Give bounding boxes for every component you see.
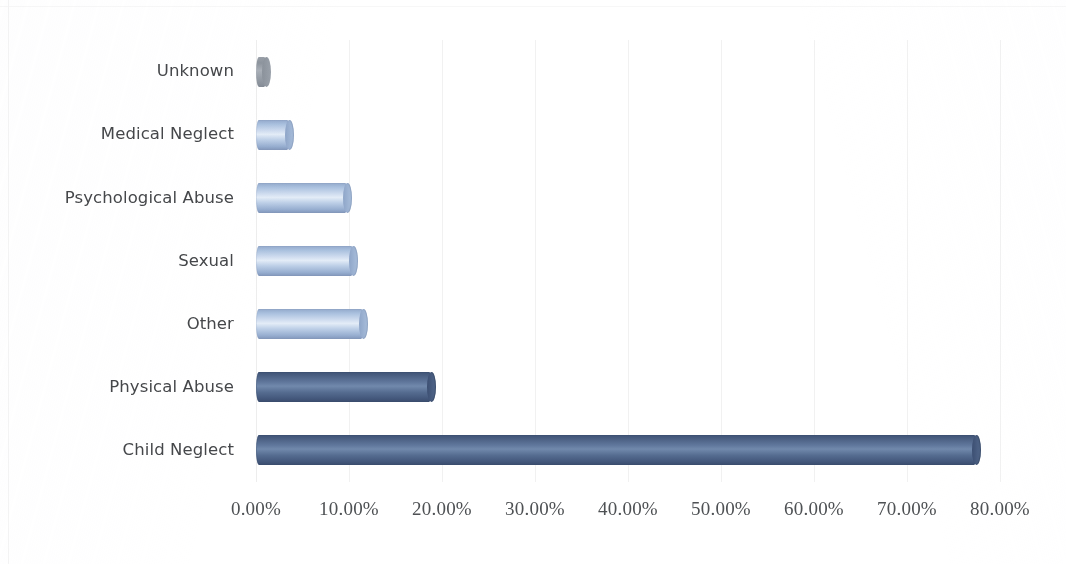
bar-body <box>256 372 432 402</box>
bar-row: Unknown <box>256 40 267 103</box>
bar-body <box>256 309 364 339</box>
bar-body <box>256 183 348 213</box>
bar <box>256 435 977 465</box>
bar-row: Sexual <box>256 229 354 292</box>
x-axis-tick-label: 70.00% <box>877 498 937 520</box>
x-axis-tick-label: 40.00% <box>598 498 658 520</box>
x-axis-tick-label: 50.00% <box>691 498 751 520</box>
x-axis-tick-label: 30.00% <box>505 498 565 520</box>
category-label: Other <box>187 316 234 333</box>
bar-end-cap <box>285 120 294 150</box>
gridline <box>442 40 443 482</box>
x-axis-tick-label: 10.00% <box>319 498 379 520</box>
category-label: Child Neglect <box>123 442 234 459</box>
x-axis-tick-label: 60.00% <box>784 498 844 520</box>
plot-area: UnknownMedical NeglectPsychological Abus… <box>256 40 1000 520</box>
gridline <box>907 40 908 482</box>
x-axis-tick-label: 20.00% <box>412 498 472 520</box>
bar <box>256 120 290 150</box>
gridline <box>721 40 722 482</box>
category-label: Psychological Abuse <box>65 190 234 207</box>
bar-end-cap <box>349 246 358 276</box>
bar <box>256 183 348 213</box>
bar-row: Other <box>256 293 364 356</box>
gridline <box>628 40 629 482</box>
bar-row: Child Neglect <box>256 419 977 482</box>
bar <box>256 309 364 339</box>
category-label: Unknown <box>157 63 234 80</box>
bar-row: Medical Neglect <box>256 103 290 166</box>
gridline <box>814 40 815 482</box>
x-axis-tick-label: 80.00% <box>970 498 1030 520</box>
category-label: Sexual <box>178 253 234 270</box>
gridline <box>1000 40 1001 482</box>
bar-row: Psychological Abuse <box>256 166 348 229</box>
bar-end-cap <box>972 435 981 465</box>
bar-row: Physical Abuse <box>256 356 432 419</box>
bar <box>256 57 267 87</box>
bar-end-cap <box>427 372 436 402</box>
bar-body <box>256 246 354 276</box>
category-label: Medical Neglect <box>101 126 234 143</box>
bar <box>256 372 432 402</box>
bar-end-cap <box>359 309 368 339</box>
x-axis-tick-label: 0.00% <box>231 498 281 520</box>
bar-body <box>256 435 977 465</box>
bar-end-cap <box>262 57 271 87</box>
bar-chart: UnknownMedical NeglectPsychological Abus… <box>0 0 1066 564</box>
bar-end-cap <box>343 183 352 213</box>
gridline <box>535 40 536 482</box>
bar <box>256 246 354 276</box>
category-label: Physical Abuse <box>109 379 234 396</box>
